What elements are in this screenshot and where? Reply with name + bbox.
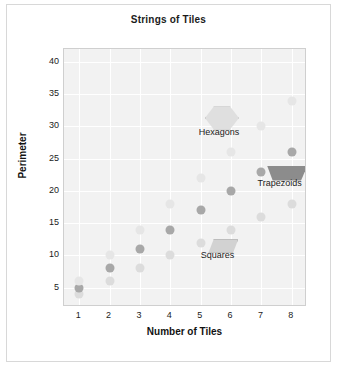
data-point (287, 148, 296, 157)
data-point (166, 199, 175, 208)
y-tick-label: 30 (37, 120, 59, 130)
y-tick-label: 35 (37, 88, 59, 98)
data-point (196, 174, 205, 183)
chart-title: Strings of Tiles (0, 14, 337, 25)
y-axis-label: Perimeter (17, 96, 28, 216)
y-axis-ticks: 510152025303540 (35, 48, 59, 306)
gridline-vertical (170, 49, 171, 305)
x-axis-label: Number of Tiles (63, 326, 306, 337)
gridline-horizontal (64, 288, 305, 289)
x-tick-label: 2 (99, 310, 119, 320)
gridline-vertical (79, 49, 80, 305)
y-tick-label: 5 (37, 282, 59, 292)
gridline-horizontal (64, 255, 305, 256)
gridline-horizontal (64, 159, 305, 160)
gridline-horizontal (64, 191, 305, 192)
gridline-horizontal (64, 94, 305, 95)
series-label-squares: Squares (201, 250, 235, 260)
gridline-horizontal (64, 223, 305, 224)
y-tick-label: 20 (37, 185, 59, 195)
x-tick-label: 7 (250, 310, 270, 320)
data-point (135, 225, 144, 234)
data-point (257, 167, 266, 176)
x-tick-label: 5 (190, 310, 210, 320)
gridline-vertical (231, 49, 232, 305)
data-point (105, 251, 114, 260)
data-point (227, 225, 236, 234)
data-point (135, 244, 144, 253)
gridline-vertical (261, 49, 262, 305)
data-point (105, 277, 114, 286)
plot-area: HexagonsTrapezoidsSquares (63, 48, 306, 306)
x-tick-label: 4 (159, 310, 179, 320)
data-point (135, 264, 144, 273)
series-label-trapezoids: Trapezoids (258, 178, 302, 188)
x-tick-label: 6 (220, 310, 240, 320)
x-tick-label: 1 (68, 310, 88, 320)
chart-figure: Strings of Tiles HexagonsTrapezoidsSquar… (0, 0, 337, 374)
data-point (196, 238, 205, 247)
data-point (257, 122, 266, 131)
y-tick-label: 10 (37, 249, 59, 259)
data-point (105, 264, 114, 273)
data-point (166, 251, 175, 260)
y-tick-label: 15 (37, 217, 59, 227)
x-tick-label: 8 (281, 310, 301, 320)
x-tick-label: 3 (129, 310, 149, 320)
series-label-hexagons: Hexagons (199, 127, 240, 137)
x-axis-ticks: 12345678 (63, 310, 306, 324)
gridline-horizontal (64, 126, 305, 127)
y-tick-label: 25 (37, 153, 59, 163)
data-point (75, 277, 84, 286)
data-point (287, 199, 296, 208)
data-point (196, 206, 205, 215)
data-point (287, 96, 296, 105)
data-point (227, 186, 236, 195)
data-point (166, 225, 175, 234)
data-point (257, 212, 266, 221)
gridline-horizontal (64, 62, 305, 63)
data-point (227, 148, 236, 157)
y-tick-label: 40 (37, 56, 59, 66)
